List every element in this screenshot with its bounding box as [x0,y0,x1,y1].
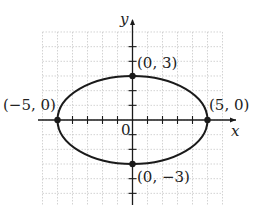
point-label-right: (5, 0) [209,98,249,113]
point-label-bottom: (0, −3) [137,170,190,185]
point-label-left: (−5, 0) [3,98,56,113]
y-axis-label: y [120,12,128,27]
vertex-point [204,117,210,123]
vertex-point [129,73,135,79]
x-axis-label: x [231,124,239,139]
vertex-point [54,117,60,123]
origin-label: 0 [121,123,131,138]
vertex-point [129,161,135,167]
point-label-top: (0, 3) [137,56,177,71]
